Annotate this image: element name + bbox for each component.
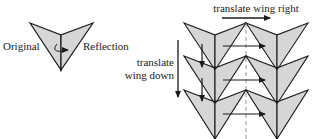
translate-down-label-line2: wing down <box>112 69 174 81</box>
translate-down-label-line1: translate <box>112 56 174 68</box>
original-label: Original <box>3 40 40 52</box>
reflection-label: Reflection <box>83 40 129 52</box>
translate-right-label: translate wing right <box>200 2 312 14</box>
tessellation-figure <box>184 23 308 139</box>
